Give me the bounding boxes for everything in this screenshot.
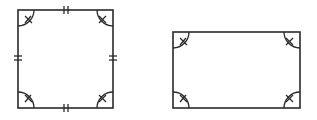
square-angle-top-left — [18, 10, 34, 26]
rectangle-angle-bottom-right — [284, 92, 300, 108]
rectangle-outline — [173, 32, 300, 108]
rectangle-angle-top-left — [173, 32, 189, 48]
diagram-canvas — [0, 0, 317, 120]
square-shape — [14, 6, 117, 112]
rectangle-shape — [173, 32, 300, 108]
square-angle-bottom-left — [18, 92, 34, 108]
rectangle-angle-top-right — [284, 32, 300, 48]
square-angle-bottom-right — [97, 92, 113, 108]
square-outline — [18, 10, 113, 108]
square-angle-top-right — [97, 10, 113, 26]
rectangle-angle-bottom-left — [173, 92, 189, 108]
